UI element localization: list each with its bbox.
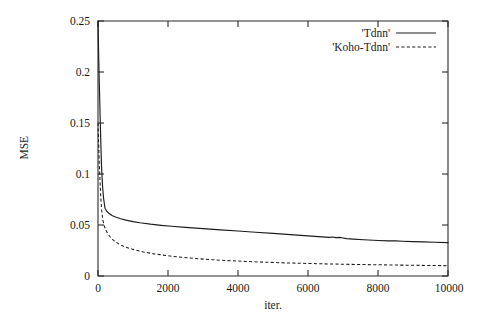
x-tick-label-2: 4000	[218, 283, 258, 295]
mse-convergence-figure: 0 0.05 0.1 0.15 0.2 0.25 0 2000 4000 600…	[0, 0, 485, 319]
y-tick-label-3: 0.15	[56, 118, 90, 130]
y-tick-label-1: 0.05	[56, 220, 90, 232]
x-tick-label-1: 2000	[148, 283, 188, 295]
x-axis-ticks	[98, 21, 448, 276]
y-tick-label-2: 0.1	[56, 169, 90, 181]
y-tick-label-0: 0	[56, 271, 90, 283]
plot-frame	[98, 21, 448, 276]
legend-label-koho-tdnn: 'Koho-Tdnn'	[288, 42, 390, 54]
series-line-tdnn	[98, 21, 448, 243]
x-tick-label-5: 10000	[427, 283, 471, 295]
x-axis-title: iter.	[248, 300, 298, 312]
y-tick-label-5: 0.25	[56, 16, 90, 28]
x-tick-label-3: 6000	[288, 283, 328, 295]
y-tick-label-4: 0.2	[56, 67, 90, 79]
y-axis-title: MSE	[19, 125, 31, 171]
legend-label-tdnn: 'Tdnn'	[288, 28, 390, 40]
x-tick-label-4: 8000	[358, 283, 398, 295]
y-axis-ticks	[98, 21, 448, 276]
legend-samples	[396, 33, 436, 47]
series-line-koho-tdnn	[98, 123, 448, 266]
x-tick-label-0: 0	[78, 283, 118, 295]
